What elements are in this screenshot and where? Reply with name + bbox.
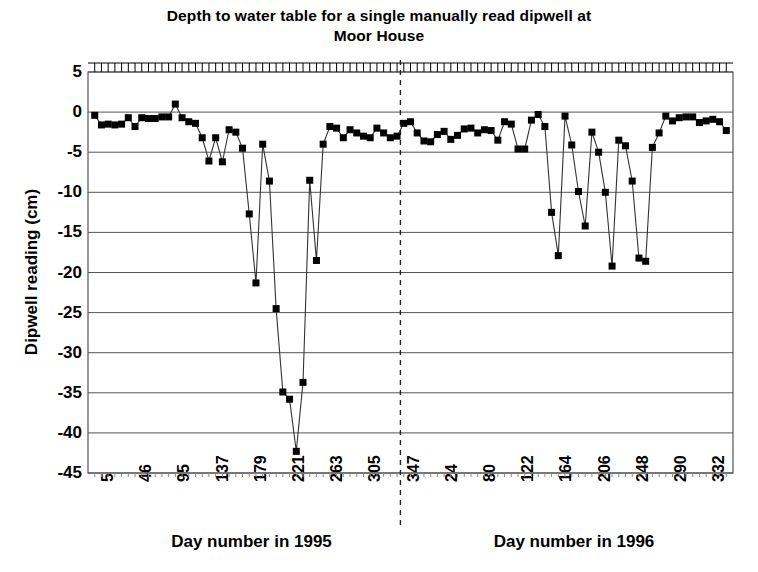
data-point-marker (521, 145, 528, 152)
data-point-marker (414, 129, 421, 136)
data-point-marker (165, 113, 172, 120)
data-line (95, 104, 727, 451)
data-point-marker (709, 116, 716, 123)
data-point-marker (152, 115, 159, 122)
data-point-marker (300, 379, 307, 386)
data-point-marker (91, 112, 98, 119)
data-point-marker (326, 123, 333, 130)
data-point-marker (427, 138, 434, 145)
data-point-marker (111, 121, 118, 128)
data-point-marker (689, 113, 696, 120)
data-point-marker (252, 279, 259, 286)
data-point-marker (541, 123, 548, 130)
data-point-marker (158, 113, 165, 120)
data-point-marker (192, 120, 199, 127)
data-point-marker (387, 134, 394, 141)
plot-canvas (0, 0, 758, 572)
data-point-marker (199, 134, 206, 141)
data-point-marker (562, 113, 569, 120)
data-point-marker (306, 177, 313, 184)
data-point-marker (494, 137, 501, 144)
data-point-marker (407, 118, 414, 125)
data-point-marker (481, 126, 488, 133)
data-point-marker (609, 263, 616, 270)
data-point-marker (400, 120, 407, 127)
data-point-marker (340, 134, 347, 141)
data-point-marker (293, 448, 300, 455)
data-point-marker (246, 210, 253, 217)
data-point-marker (212, 134, 219, 141)
data-point-marker (226, 126, 233, 133)
data-point-marker (420, 137, 427, 144)
data-point-marker (320, 141, 327, 148)
data-point-marker (662, 113, 669, 120)
data-point-marker (696, 119, 703, 126)
chart-figure: Depth to water table for a single manual… (0, 0, 758, 572)
data-point-marker (105, 121, 112, 128)
data-point-marker (488, 127, 495, 134)
data-point-marker (333, 125, 340, 132)
data-point-marker (219, 158, 226, 165)
data-point-marker (515, 145, 522, 152)
data-point-marker (555, 252, 562, 259)
data-point-marker (205, 158, 212, 165)
data-point-marker (232, 129, 239, 136)
data-point-marker (380, 129, 387, 136)
data-point-marker (447, 136, 454, 143)
data-point-marker (467, 125, 474, 132)
data-point-marker (656, 129, 663, 136)
data-point-marker (635, 255, 642, 262)
data-point-marker (98, 121, 105, 128)
data-point-marker (353, 129, 360, 136)
data-point-marker (279, 389, 286, 396)
data-point-marker (286, 396, 293, 403)
data-point-marker (474, 129, 481, 136)
data-point-marker (125, 114, 132, 121)
data-point-marker (434, 131, 441, 138)
data-point-marker (723, 127, 730, 134)
data-point-marker (703, 117, 710, 124)
data-point-marker (508, 121, 515, 128)
data-point-marker (669, 117, 676, 124)
data-point-marker (622, 142, 629, 149)
data-point-marker (682, 113, 689, 120)
data-point-marker (132, 123, 139, 130)
data-point-marker (373, 125, 380, 132)
data-point-marker (185, 118, 192, 125)
data-point-marker (172, 101, 179, 108)
data-point-marker (138, 114, 145, 121)
data-point-marker (454, 132, 461, 139)
data-point-marker (615, 137, 622, 144)
data-point-marker (145, 115, 152, 122)
data-point-marker (118, 121, 125, 128)
data-point-marker (347, 126, 354, 133)
data-point-marker (582, 222, 589, 229)
data-point-marker (394, 133, 401, 140)
data-point-marker (360, 133, 367, 140)
data-point-marker (588, 129, 595, 136)
data-point-marker (367, 134, 374, 141)
data-point-marker (716, 118, 723, 125)
data-point-marker (259, 141, 266, 148)
data-point-marker (535, 111, 542, 118)
data-point-marker (595, 149, 602, 156)
data-point-marker (649, 144, 656, 151)
data-point-marker (179, 114, 186, 121)
data-point-marker (676, 114, 683, 121)
data-point-marker (642, 258, 649, 265)
data-point-marker (313, 257, 320, 264)
data-point-marker (528, 117, 535, 124)
data-point-marker (266, 178, 273, 185)
data-point-marker (501, 118, 508, 125)
data-point-marker (461, 125, 468, 132)
data-point-marker (273, 305, 280, 312)
data-point-marker (575, 188, 582, 195)
data-point-marker (602, 189, 609, 196)
data-point-marker (629, 178, 636, 185)
data-point-marker (548, 209, 555, 216)
data-point-marker (441, 128, 448, 135)
data-point-marker (239, 145, 246, 152)
data-point-marker (568, 141, 575, 148)
